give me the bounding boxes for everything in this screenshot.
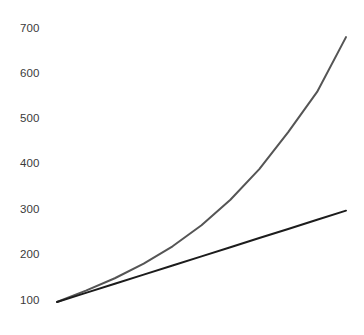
plot-area: [0, 0, 364, 335]
series-line-exponential-growth: [57, 37, 346, 302]
chart-container: 700 600 500 400 300 200 100: [0, 0, 364, 335]
